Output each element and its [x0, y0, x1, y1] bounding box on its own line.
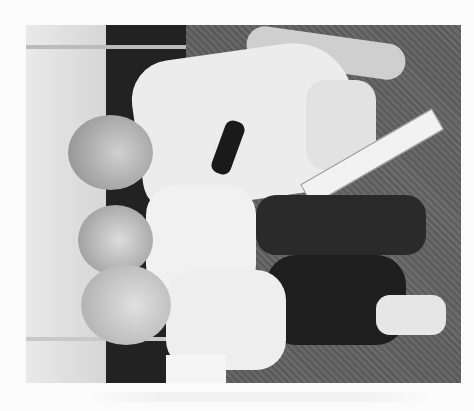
tent-pole	[26, 45, 186, 49]
child-head	[78, 205, 153, 275]
bleed-through-text	[90, 392, 430, 402]
woman-legs	[376, 295, 446, 335]
photograph	[26, 25, 461, 383]
woman-head	[81, 265, 171, 345]
man-head	[68, 115, 153, 190]
banner	[166, 355, 226, 383]
child-legs	[256, 195, 426, 255]
